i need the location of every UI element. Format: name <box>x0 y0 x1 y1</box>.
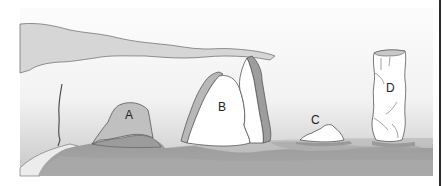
label-b: B <box>218 100 226 114</box>
right-edge-line <box>439 0 441 186</box>
label-a: A <box>125 108 133 122</box>
label-d: D <box>386 81 395 95</box>
coastal-landforms-illustration: A B C D <box>0 0 442 186</box>
landform-d-stack <box>372 50 406 142</box>
label-c: C <box>311 113 320 127</box>
